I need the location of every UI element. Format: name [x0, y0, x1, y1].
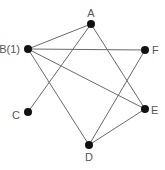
node-label-a: A [87, 7, 95, 19]
node-a [87, 20, 95, 28]
graph-diagram: AB(1)FECD [0, 0, 165, 170]
node-b [24, 45, 32, 53]
nodes-layer: AB(1)FECD [0, 7, 159, 163]
edge-d-e [89, 109, 145, 145]
node-label-e: E [151, 104, 158, 116]
node-f [141, 46, 149, 54]
node-label-f: F [152, 44, 159, 56]
edges-layer [28, 24, 145, 145]
node-label-d: D [85, 151, 93, 163]
edge-b-f [28, 49, 145, 50]
node-label-c: C [12, 109, 20, 121]
edge-b-d [28, 49, 89, 145]
node-label-b: B(1) [0, 43, 20, 55]
node-c [24, 108, 32, 116]
node-e [141, 105, 149, 113]
node-d [85, 141, 93, 149]
